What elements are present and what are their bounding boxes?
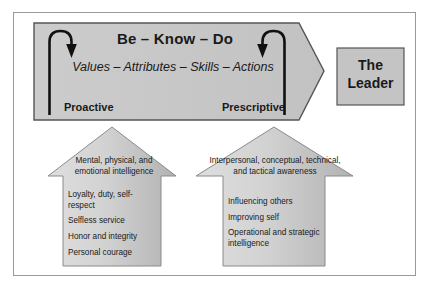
left-arrow-head-text: Mental, physical, and emotional intellig… xyxy=(68,156,160,178)
list-item: Personal courage xyxy=(68,248,158,259)
banner-title: Be – Know – Do xyxy=(60,30,290,48)
list-item: Influencing others xyxy=(228,197,324,208)
list-item: Operational and strategic intelligence xyxy=(228,228,324,249)
right-arrow-list: Influencing others Improving self Operat… xyxy=(228,197,324,255)
banner-label-proactive: Proactive xyxy=(64,101,114,114)
leader-label-line2: Leader xyxy=(337,75,404,93)
right-arrow-head-text: Interpersonal, conceptual, technical, an… xyxy=(208,156,342,178)
banner-label-prescriptive: Prescriptive xyxy=(222,101,285,114)
banner-subtitle: Values – Attributes – Skills – Actions xyxy=(48,60,298,75)
left-arrow-list: Loyalty, duty, self-respect Selfless ser… xyxy=(68,190,158,263)
list-item: Honor and integrity xyxy=(68,232,158,243)
list-item: Improving self xyxy=(228,213,324,224)
list-item: Selfless service xyxy=(68,216,158,227)
leader-label-line1: The xyxy=(337,57,404,75)
leader-box-label: The Leader xyxy=(337,57,404,92)
list-item: Loyalty, duty, self-respect xyxy=(68,190,158,211)
